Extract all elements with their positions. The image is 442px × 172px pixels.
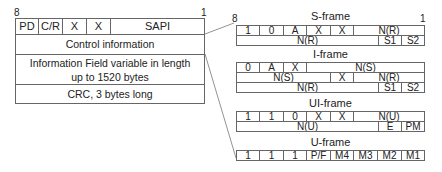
control-information-row: Control information — [15, 34, 205, 55]
u-bit-pf: P/F — [306, 150, 331, 161]
sapi-field: SAPI — [110, 18, 205, 35]
u-frame-title: U-frame — [236, 136, 425, 148]
crc-row: CRC, 3 bytes long — [15, 84, 205, 104]
cr-field: C/R — [38, 18, 63, 35]
u-bit-m1: M1 — [401, 150, 425, 161]
information-field-row: Information Field variable in length up … — [15, 54, 205, 85]
ui-bit-e: E — [378, 121, 402, 132]
u-bit-m2: M2 — [377, 150, 402, 161]
s-bit-s1: S1 — [378, 35, 402, 46]
ui-nu-low: N(U) — [236, 121, 379, 132]
u-bit-m3: M3 — [353, 150, 378, 161]
u-bit-1a: 1 — [236, 150, 260, 161]
x-field-1: X — [62, 18, 87, 35]
i-bit-s1: S1 — [378, 82, 402, 93]
ui-bit-pm: PM — [401, 121, 425, 132]
bit-1-label: 1 — [201, 8, 207, 18]
pd-field: PD — [15, 18, 39, 35]
i-bit-s2: S2 — [401, 82, 425, 93]
s-nr-low: N(R) — [236, 35, 379, 46]
s-bit-s2: S2 — [401, 35, 425, 46]
ui-frame-title: UI-frame — [236, 97, 425, 109]
u-bit-m4: M4 — [330, 150, 354, 161]
bit-8-label: 8 — [14, 8, 20, 18]
i-nr-low: N(R) — [236, 82, 379, 93]
u-bit-1c: 1 — [283, 150, 307, 161]
u-bit-1b: 1 — [259, 150, 284, 161]
i-frame-title: I-frame — [236, 48, 425, 60]
x-field-2: X — [86, 18, 111, 35]
s-frame-title: S-frame — [236, 10, 425, 22]
